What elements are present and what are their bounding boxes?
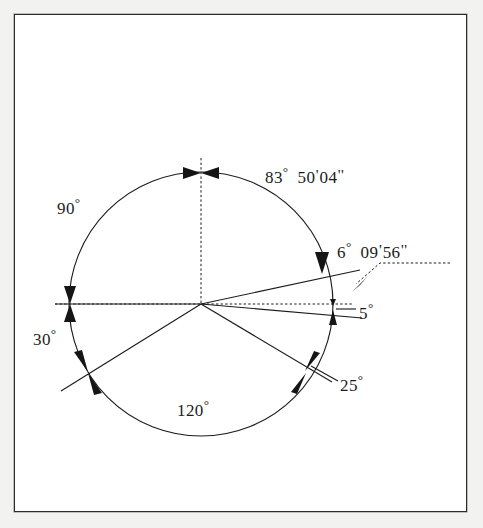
arrowhead-lowerright-lower — [291, 373, 306, 394]
label-6-sec-value: 56 — [383, 243, 401, 262]
label-83-deg-unit: ° — [283, 164, 289, 179]
label-83-degrees: 83°50'04'' — [265, 165, 345, 186]
arrowhead-top-right — [201, 167, 219, 179]
label-6-degrees: 6°09'56'' — [337, 240, 408, 261]
label-83-sec-unit: '' — [337, 166, 344, 183]
angle-diagram-svg: .stroke { stroke: #1c1c1c; fill: none; }… — [0, 0, 483, 528]
label-6-sec-unit: '' — [400, 241, 407, 258]
label-90-unit: ° — [75, 195, 81, 210]
ray-lower-left — [61, 304, 201, 391]
arrowhead-lowerright-upper — [305, 351, 320, 371]
arrowhead-leader-six — [352, 276, 368, 292]
label-5-value: 5 — [359, 304, 368, 323]
label-120-degrees: 120° — [177, 398, 209, 419]
arrowhead-five-lower — [329, 310, 337, 325]
label-6-min-value: 09 — [361, 243, 379, 262]
arrowhead-top-left — [183, 167, 201, 179]
arrowhead-left-upper — [64, 286, 76, 304]
leader-line-six-degree — [356, 263, 450, 284]
label-83-sec-value: 04 — [320, 168, 338, 187]
arrowhead-five-upper — [330, 299, 336, 306]
arrowhead-lowerleft-lower — [88, 373, 102, 395]
ray-upper-right — [201, 270, 360, 304]
ray-lower-right — [201, 304, 332, 382]
label-25-value: 25 — [340, 376, 358, 395]
ray-five-degree — [201, 304, 362, 318]
label-120-value: 120 — [177, 401, 204, 420]
label-25-degrees: 25° — [340, 373, 364, 394]
label-90-degrees: 90° — [57, 196, 81, 217]
label-120-unit: ° — [204, 397, 210, 412]
label-30-value: 30 — [33, 330, 51, 349]
label-5-degrees: 5° — [359, 301, 374, 322]
label-30-unit: ° — [51, 326, 57, 341]
label-6-deg-value: 6 — [337, 243, 346, 262]
diagram-page: .stroke { stroke: #1c1c1c; fill: none; }… — [0, 0, 483, 528]
arrowhead-left-lower — [64, 304, 76, 322]
label-25-unit: ° — [358, 372, 364, 387]
label-83-deg-value: 83 — [265, 168, 283, 187]
label-83-min-value: 50 — [298, 168, 316, 187]
label-90-value: 90 — [57, 199, 75, 218]
label-30-degrees: 30° — [33, 327, 57, 348]
leader-line-twentyfive — [311, 366, 338, 381]
label-5-unit: ° — [368, 300, 374, 315]
label-6-deg-unit: ° — [346, 239, 352, 254]
arrowhead-lowerleft-upper — [74, 350, 88, 372]
